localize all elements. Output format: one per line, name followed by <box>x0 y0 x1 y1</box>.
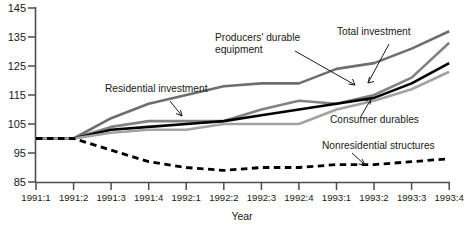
annotation-total-investment: Total investment <box>337 26 411 37</box>
y-tick-label-95: 95 <box>14 147 26 159</box>
pointer-nonresidential <box>352 153 365 165</box>
y-tick-label-145: 145 <box>8 2 26 14</box>
x-tick-marks <box>36 183 449 191</box>
x-tick-label-1993-3: 1993:3 <box>397 192 426 203</box>
y-tick-label-85: 85 <box>14 176 26 188</box>
x-tick-label-1992-1: 1992:1 <box>172 192 201 203</box>
x-tick-label-1993-2: 1993:2 <box>359 192 388 203</box>
series-line-total-investment <box>36 63 449 138</box>
annotation-residential-investment: Residential investment <box>105 83 208 94</box>
x-axis-title: Year <box>231 210 253 222</box>
annotation-producers-durable-equipment-line1: Producers' durable <box>215 32 301 43</box>
y-tick-marks <box>28 8 36 182</box>
annotation-consumer-durables: Consumer durables <box>330 114 419 125</box>
y-tick-label-105: 105 <box>8 118 26 130</box>
annotation-nonresidential-structures: Nonresidential structures <box>322 140 435 151</box>
x-tick-label-1992-2: 1992:2 <box>209 192 238 203</box>
x-tick-label-1991-2: 1991:2 <box>59 192 88 203</box>
y-tick-label-115: 115 <box>8 89 26 101</box>
y-axis-labels: 145 135 125 115 105 95 85 <box>8 2 26 188</box>
chart-canvas: 145 135 125 115 105 95 85 1991:1 1991:2 … <box>0 0 468 227</box>
series-line-consumer-durables <box>36 72 449 139</box>
x-tick-label-1991-1: 1991:1 <box>21 192 50 203</box>
annotation-producers-durable-equipment-line2: equipment <box>215 44 263 55</box>
y-tick-label-125: 125 <box>8 60 26 72</box>
x-tick-label-1991-4: 1991:4 <box>134 192 164 203</box>
x-tick-label-1992-3: 1992:3 <box>247 192 276 203</box>
x-tick-label-1993-1: 1993:1 <box>322 192 351 203</box>
x-tick-label-1991-3: 1991:3 <box>96 192 125 203</box>
x-axis-labels: 1991:1 1991:2 1991:3 1991:4 1992:1 1992:… <box>21 192 464 203</box>
x-tick-label-1992-4: 1992:4 <box>284 192 314 203</box>
investment-index-line-chart: 145 135 125 115 105 95 85 1991:1 1991:2 … <box>0 0 468 227</box>
x-tick-label-1993-4: 1993:4 <box>435 192 465 203</box>
y-tick-label-135: 135 <box>8 31 26 43</box>
